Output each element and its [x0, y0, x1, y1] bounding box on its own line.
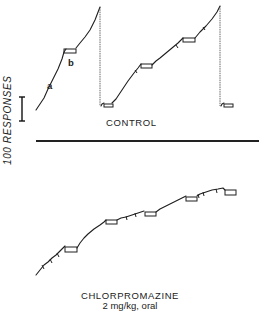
annotation-b: b [68, 57, 74, 68]
chlorpromazine-trace [36, 188, 236, 275]
control-panel-label: CONTROL [106, 117, 157, 128]
annotation-a: a [47, 80, 52, 91]
control-trace [36, 6, 233, 110]
chlorpromazine-dose-label: 2 mg/kg, oral [75, 300, 185, 311]
y-axis-label: 100 RESPONSES [2, 75, 13, 165]
scale-bar [19, 97, 25, 121]
